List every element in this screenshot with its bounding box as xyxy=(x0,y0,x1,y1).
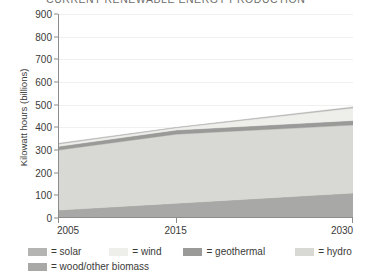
y-axis-title: Kilowatt hours (billions) xyxy=(18,33,29,203)
plot-area: 0100200300400500600700800900 20052015203… xyxy=(58,14,353,218)
y-tick-label: 100 xyxy=(35,190,52,201)
y-tick-mark xyxy=(54,82,58,83)
legend-swatch-hydro xyxy=(295,248,314,256)
legend-item-hydro[interactable]: = hydro xyxy=(295,246,352,257)
chart-title: CURRENT RENEWABLE ENERGY PRODUCTION xyxy=(46,0,346,5)
y-axis-line xyxy=(58,14,59,218)
y-tick-label: 400 xyxy=(35,122,52,133)
y-tick-mark xyxy=(54,14,58,15)
legend-swatch-geothermal xyxy=(183,248,202,256)
chart-legend: = solar= wind= geothermal= hydro = wood/… xyxy=(28,244,358,274)
y-tick-label: 900 xyxy=(35,9,52,20)
x-tick-label: 2005 xyxy=(57,225,79,236)
legend-row-primary: = solar= wind= geothermal= hydro xyxy=(28,244,358,259)
legend-label-solar: = solar xyxy=(51,246,81,257)
x-axis-line xyxy=(58,217,353,218)
legend-swatch-solar xyxy=(28,248,47,256)
y-tick-label: 700 xyxy=(35,54,52,65)
y-tick-label: 300 xyxy=(35,145,52,156)
legend-label-hydro: = hydro xyxy=(318,246,352,257)
y-tick-mark xyxy=(54,104,58,105)
y-tick-mark xyxy=(54,150,58,151)
stacked-area-series xyxy=(59,14,353,218)
legend-item-solar[interactable]: = solar xyxy=(28,246,81,257)
legend-item-geothermal[interactable]: = geothermal xyxy=(183,246,265,257)
legend-label-wind: = wind xyxy=(132,246,161,257)
y-tick-mark xyxy=(54,195,58,196)
legend-swatch-wind xyxy=(109,248,128,256)
legend-swatch-wood-other-biomass xyxy=(28,263,47,271)
x-tick-label: 2030 xyxy=(331,225,353,236)
y-tick-label: 500 xyxy=(35,99,52,110)
x-tick-mark xyxy=(176,218,177,223)
y-tick-mark xyxy=(54,127,58,128)
y-tick-label: 600 xyxy=(35,77,52,88)
y-tick-mark xyxy=(54,36,58,37)
x-tick-mark xyxy=(352,218,353,223)
legend-row-secondary: = wood/other biomass xyxy=(28,259,358,274)
y-tick-label: 0 xyxy=(46,213,52,224)
legend-item-wind[interactable]: = wind xyxy=(109,246,161,257)
y-tick-label: 200 xyxy=(35,167,52,178)
x-tick-mark xyxy=(58,218,59,223)
legend-label-geothermal: = geothermal xyxy=(206,246,265,257)
y-tick-mark xyxy=(54,59,58,60)
legend-label-wood-other-biomass: = wood/other biomass xyxy=(51,261,149,272)
y-tick-label: 800 xyxy=(35,31,52,42)
x-tick-label: 2015 xyxy=(164,225,186,236)
legend-item-wood-other-biomass[interactable]: = wood/other biomass xyxy=(28,261,149,272)
y-tick-mark xyxy=(54,172,58,173)
